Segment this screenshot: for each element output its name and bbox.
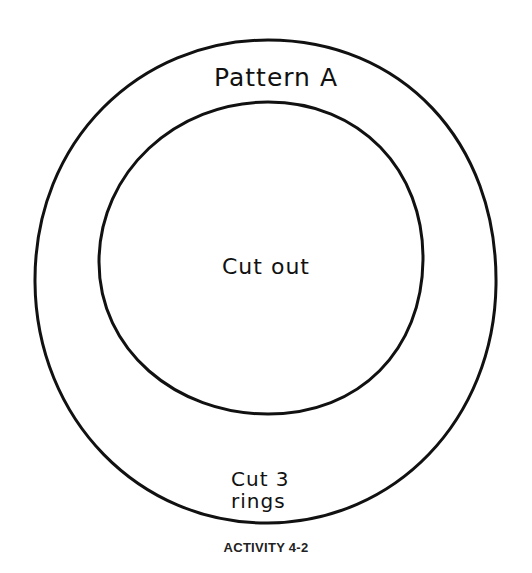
instruction-line-2: rings [231, 490, 290, 512]
activity-caption: ACTIVITY 4-2 [0, 540, 532, 555]
instruction-line-1: Cut 3 [231, 468, 290, 490]
cut-rings-instruction: Cut 3 rings [231, 468, 290, 512]
pattern-sheet: Pattern A Cut out Cut 3 rings ACTIVITY 4… [0, 0, 532, 573]
pattern-title: Pattern A [214, 63, 338, 92]
outer-circle [35, 40, 496, 523]
cut-out-label: Cut out [222, 254, 310, 279]
